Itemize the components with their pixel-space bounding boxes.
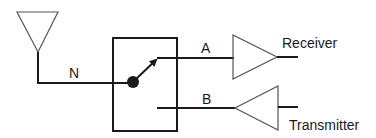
- switch-arrow-icon: [136, 60, 156, 79]
- antenna-icon: [17, 12, 58, 52]
- diagram-canvas: N A B Receiver Transmitter: [0, 0, 376, 138]
- label-receiver: Receiver: [282, 35, 338, 51]
- switch-box-icon: [113, 38, 177, 131]
- line-n: [38, 52, 133, 83]
- label-n: N: [69, 65, 79, 81]
- label-transmitter: Transmitter: [289, 117, 360, 133]
- label-b: B: [202, 91, 211, 107]
- diagram-svg: N A B Receiver Transmitter: [0, 0, 376, 138]
- label-a: A: [201, 40, 211, 56]
